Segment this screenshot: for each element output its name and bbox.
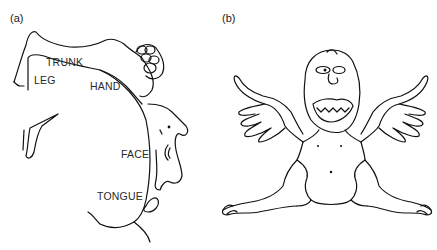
panel-a: (a) LEG TRUNK HAND FACE TONGUE — [0, 0, 215, 250]
homunculus-figure-drawing — [215, 0, 437, 250]
head-outline — [304, 50, 360, 133]
navel — [330, 171, 332, 173]
right-leg — [365, 160, 432, 215]
nose-mark — [160, 130, 162, 134]
face-profile — [148, 104, 188, 190]
panel-b: (b) — [215, 0, 437, 250]
isolated-shape — [26, 114, 58, 158]
eye — [168, 126, 171, 129]
nipple-left — [317, 145, 319, 147]
left-hand-fingers — [239, 104, 285, 142]
region-label-hand: HAND — [90, 80, 121, 92]
right-hand-fingers — [379, 104, 425, 142]
cortex-homunculus-drawing — [0, 0, 215, 250]
region-label-tongue: TONGUE — [97, 190, 143, 202]
body-outline-outer — [14, 32, 153, 97]
isolated-stroke — [23, 130, 24, 150]
left-eye — [316, 67, 330, 74]
crotch — [311, 200, 351, 205]
foot-outline — [14, 82, 24, 86]
nose — [328, 74, 338, 84]
teeth-line — [317, 108, 349, 112]
right-eye — [333, 67, 345, 74]
mouth-line — [169, 148, 171, 158]
left-leg — [222, 160, 297, 215]
mouth-interior — [165, 145, 168, 160]
nipple-right — [340, 145, 342, 147]
region-label-face: FACE — [121, 148, 149, 160]
left-pupil — [324, 69, 327, 72]
region-label-leg: LEG — [34, 74, 56, 86]
region-label-trunk: TRUNK — [46, 56, 83, 68]
torso-left — [297, 130, 319, 206]
cortex-arc-inner — [134, 222, 150, 242]
torso-right — [345, 130, 367, 206]
